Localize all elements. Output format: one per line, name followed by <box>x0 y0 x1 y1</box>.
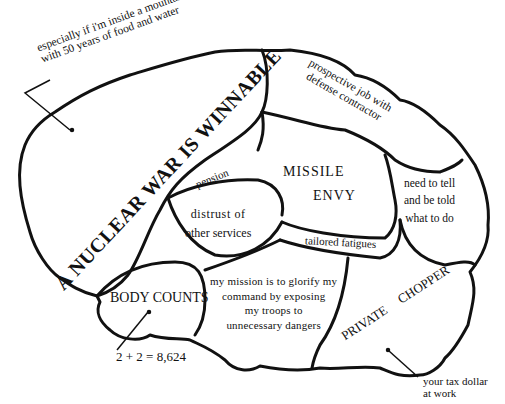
mountain-note-dot <box>71 129 74 132</box>
my-mission-line-2: command by exposing <box>210 289 337 304</box>
tax-note-line-1: your tax dollar <box>423 376 488 388</box>
region-label-my-mission: my mission is to glorify my command by e… <box>210 274 337 332</box>
distrust-line-1: distrust of <box>185 205 251 224</box>
region-label-missile-envy: MISSILE ENVY <box>283 160 356 208</box>
distrust-line-2: other services <box>185 224 251 243</box>
need-to-tell-line-2: and be told <box>404 192 455 209</box>
tax-note-line-2: at work <box>423 388 488 400</box>
tax-note: your tax dollar at work <box>423 376 488 399</box>
math-note-pointer <box>117 312 148 350</box>
missile-envy-line-1: MISSILE <box>283 160 356 184</box>
divider-need-tell <box>400 220 475 265</box>
region-label-distrust: distrust of other services <box>185 205 251 242</box>
need-to-tell-line-1: need to tell <box>404 175 455 192</box>
region-label-body-counts: BODY COUNTS <box>110 290 209 306</box>
region-label-need-to-tell: need to tell and be told what to do <box>404 175 455 227</box>
math-note: 2 + 2 = 8,624 <box>116 350 186 365</box>
need-to-tell-line-3: what to do <box>404 210 455 227</box>
my-mission-line-1: my mission is to glorify my <box>210 274 337 289</box>
my-mission-line-4: unnecessary dangers <box>210 318 337 333</box>
my-mission-line-3: my troops to <box>210 303 337 318</box>
math-note-dot <box>148 311 151 314</box>
tax-note-dot <box>387 349 390 352</box>
missile-envy-line-2: ENVY <box>283 184 356 208</box>
